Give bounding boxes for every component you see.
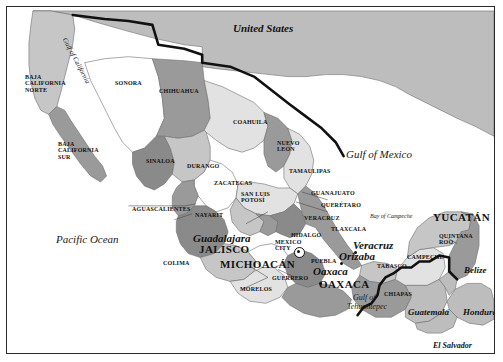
state-label-oaxaca: OAXACA xyxy=(319,279,370,291)
state-label-veracruz: VERACRUZ xyxy=(304,215,340,221)
state-label-campeche: CAMPECHE xyxy=(407,254,444,260)
state-label-queretaro: QUERÉTARO xyxy=(321,202,361,208)
state-label-coahuila: COAHUILA xyxy=(233,119,268,125)
state-label-colima: COLIMA xyxy=(163,260,190,266)
country-label-united-states: United States xyxy=(233,23,293,35)
state-label-sonora: SONORA xyxy=(115,80,142,86)
water-label-pacific-ocean: Pacific Ocean xyxy=(56,234,119,246)
state-label-baja-california-sur: BAJACALIFORNIASUR xyxy=(58,141,99,160)
water-label-tehuantepec: Tehuantepec xyxy=(347,303,387,311)
state-label-guerrero: GUERRERO xyxy=(272,275,308,281)
city-label-guadalajara: Guadalajara xyxy=(193,233,250,245)
state-label-aguascalientes: AGUASCALIENTES xyxy=(132,206,190,212)
water-label-gulf-of-mexico: Gulf of Mexico xyxy=(346,149,412,161)
state-label-nuevo-leon: NUEVOLEÓN xyxy=(277,140,300,153)
state-label-san-luis-potosi: SAN LUISPOTOSÍ xyxy=(241,191,270,204)
state-label-jalisco: JALISCO xyxy=(199,244,249,256)
state-label-yucatan: YUCATÁN xyxy=(433,212,490,224)
state-label-quintana-roo: QUINTANAROO xyxy=(439,233,473,246)
map-frame: Pacific OceanGulf of MexicoGulf of Calif… xyxy=(6,6,495,354)
state-label-chihuahua: CHIHUAHUA xyxy=(159,88,199,94)
state-label-zacatecas: ZACATECAS xyxy=(214,180,252,186)
state-label-tlaxcala: TLAXCALA xyxy=(331,226,366,232)
state-label-hidalgo: HIDALGO xyxy=(291,232,321,238)
capital-marker-mexico-city xyxy=(294,247,305,258)
state-label-chiapas: CHIAPAS xyxy=(384,291,412,297)
mexico-map-figure: Pacific OceanGulf of MexicoGulf of Calif… xyxy=(0,0,503,362)
state-label-nayarit: NAYARIT xyxy=(195,212,223,218)
state-label-puebla: PUEBLA xyxy=(311,258,337,264)
country-label-guatemala: Guatemala xyxy=(408,308,449,317)
city-marker-oaxaca xyxy=(319,282,322,285)
country-label-el-salvador: El Salvador xyxy=(433,342,472,350)
water-label-bay-of-campeche: Bay of Campeche xyxy=(370,213,412,219)
city-label-orizaba: Orizaba xyxy=(339,251,375,263)
state-label-morelos: MORELOS xyxy=(240,286,272,292)
state-label-tabasco: TABASCO xyxy=(377,263,407,269)
state-label-durango: DURANGO xyxy=(187,163,219,169)
state-label-michoacan: MICHOACÁN xyxy=(220,259,295,271)
state-label-sinaloa: SINALOA xyxy=(146,158,175,164)
state-label-baja-california-norte: BAJACALIFORNIANORTE xyxy=(25,74,66,93)
city-label-oaxaca: Oaxaca xyxy=(313,266,348,278)
country-label-belize: Belize xyxy=(464,266,487,275)
state-label-tamaulipas: TAMAULIPAS xyxy=(289,168,330,174)
state-label-guanajuato: GUANAJUATO xyxy=(311,190,355,196)
country-label-honduras: Honduras xyxy=(463,308,495,317)
